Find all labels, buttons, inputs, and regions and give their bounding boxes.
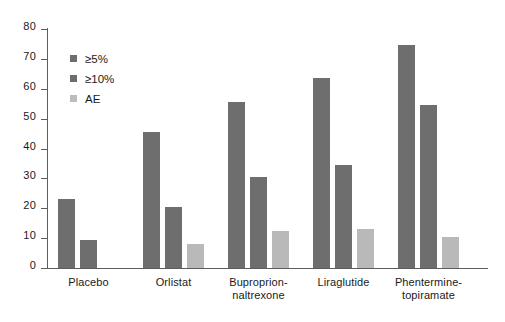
legend-swatch-icon xyxy=(70,95,77,102)
bar xyxy=(143,132,160,268)
bar-chart: 01020304050607080 PlaceboOrlistatBupropr… xyxy=(0,0,505,322)
legend-swatch-icon xyxy=(70,75,77,82)
bar xyxy=(357,229,374,268)
y-tick-label: 50 xyxy=(0,111,36,122)
y-tick-label: 0 xyxy=(0,260,36,271)
x-axis-label-line: topiramate xyxy=(369,289,489,302)
legend-label: AE xyxy=(85,93,100,105)
bar xyxy=(165,207,182,268)
bar xyxy=(228,102,245,268)
bar xyxy=(250,177,267,268)
bar xyxy=(335,165,352,268)
bar-group xyxy=(313,20,374,268)
bar xyxy=(187,244,204,268)
x-axis-label: Phentermine-topiramate xyxy=(369,276,489,302)
legend-item: ≥10% xyxy=(70,70,114,87)
legend-item: ≥5% xyxy=(70,50,114,67)
bar xyxy=(80,240,97,268)
bar xyxy=(313,78,330,268)
chart-legend: ≥5%≥10%AE xyxy=(70,50,114,110)
legend-item: AE xyxy=(70,90,114,107)
bar-group xyxy=(143,20,204,268)
legend-label: ≥5% xyxy=(85,53,108,65)
bar xyxy=(442,237,459,268)
y-tick-label: 60 xyxy=(0,81,36,92)
bar xyxy=(398,45,415,268)
bar xyxy=(272,231,289,268)
y-tick-label: 30 xyxy=(0,170,36,181)
legend-swatch-icon xyxy=(70,55,77,62)
x-axis-line xyxy=(47,268,488,269)
y-tick-label: 80 xyxy=(0,21,36,32)
y-tick-label: 10 xyxy=(0,230,36,241)
bar xyxy=(58,199,75,268)
bar-group xyxy=(228,20,289,268)
x-axis-label-line: Phentermine- xyxy=(369,276,489,289)
y-tick-label: 20 xyxy=(0,200,36,211)
y-tick-label: 70 xyxy=(0,51,36,62)
bar-group xyxy=(398,20,459,268)
legend-label: ≥10% xyxy=(85,73,114,85)
x-axis-label-line: naltrexone xyxy=(199,289,319,302)
y-tick-label: 40 xyxy=(0,141,36,152)
bar xyxy=(420,105,437,268)
